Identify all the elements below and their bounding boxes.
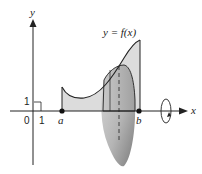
y-unit-label: 1 — [24, 96, 30, 107]
x-axis-arrow-icon — [179, 108, 188, 115]
x-unit-label: 1 — [39, 115, 45, 126]
y-axis-label: y — [29, 6, 35, 18]
y-axis-arrow-icon — [30, 19, 37, 27]
x-axis-label: x — [190, 104, 196, 116]
curve-label: y = f(x) — [102, 26, 136, 39]
point-a — [59, 108, 64, 113]
unit-tick — [34, 102, 41, 111]
point-b — [136, 108, 141, 113]
point-b-label: b — [136, 114, 142, 126]
origin-label: 0 — [24, 115, 30, 126]
point-a-label: a — [58, 114, 64, 126]
solid-of-revolution-diagram: y x 1 0 1 a b y = f(x) — [0, 0, 202, 174]
